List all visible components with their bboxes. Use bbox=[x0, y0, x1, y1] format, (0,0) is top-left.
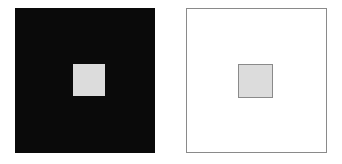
black-panel-label bbox=[14, 7, 15, 8]
gray-target-patch-on-white bbox=[238, 64, 273, 98]
figure-container bbox=[0, 0, 342, 164]
white-panel-label bbox=[186, 8, 187, 9]
white-surround-panel bbox=[186, 8, 327, 153]
black-surround-panel bbox=[15, 8, 155, 153]
gray-target-patch-on-black bbox=[73, 64, 105, 96]
